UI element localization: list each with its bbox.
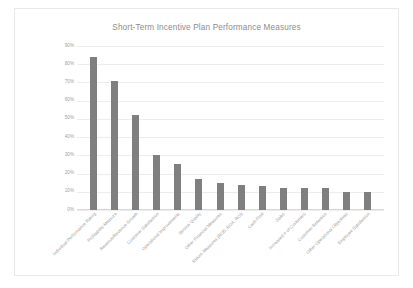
x-label-slot: Return Measures (ROE, ROA, ROI)	[231, 211, 252, 281]
y-tick-label: 50%	[44, 116, 74, 121]
bar[interactable]	[343, 192, 350, 210]
bar[interactable]	[174, 164, 181, 210]
bar-slot	[294, 46, 315, 210]
bar-slot	[104, 46, 125, 210]
bar[interactable]	[111, 81, 118, 210]
bar[interactable]	[217, 183, 224, 210]
bar-slot	[83, 46, 104, 210]
bar[interactable]	[153, 155, 160, 210]
bar-series	[77, 46, 384, 210]
y-tick-label: 30%	[44, 153, 74, 158]
bar[interactable]	[280, 188, 287, 210]
bar[interactable]	[90, 57, 97, 210]
bar[interactable]	[322, 188, 329, 210]
x-label-slot: Other Operational Objectives	[336, 211, 357, 281]
bar-slot	[315, 46, 336, 210]
bar-slot	[357, 46, 378, 210]
y-tick-label: 10%	[44, 189, 74, 194]
bar-slot	[209, 46, 230, 210]
bar-slot	[336, 46, 357, 210]
y-tick-label: 90%	[44, 44, 74, 49]
bar[interactable]	[301, 188, 308, 210]
bar[interactable]	[195, 179, 202, 210]
bar[interactable]	[364, 192, 371, 210]
x-axis: Individual Performance RatingProfitabili…	[77, 211, 384, 281]
chart-frame: Short-Term Incentive Plan Performance Me…	[14, 8, 399, 276]
y-tick-label: 70%	[44, 80, 74, 85]
y-tick-label: 80%	[44, 62, 74, 67]
bar-slot	[273, 46, 294, 210]
y-tick-label: 40%	[44, 135, 74, 140]
chart-title: Short-Term Incentive Plan Performance Me…	[15, 23, 398, 32]
bar-slot	[125, 46, 146, 210]
bar-slot	[231, 46, 252, 210]
y-tick-label: 20%	[44, 171, 74, 176]
y-tick-label: 0%	[44, 208, 74, 213]
bar[interactable]	[259, 186, 266, 210]
bar-slot	[167, 46, 188, 210]
x-label-slot: Employee Satisfaction	[357, 211, 378, 281]
x-tick-label: Sales	[275, 212, 286, 223]
y-axis: 90%80%70%60%50%40%30%20%10%0%	[41, 46, 74, 210]
bar-slot	[252, 46, 273, 210]
y-tick-label: 60%	[44, 98, 74, 103]
bar-slot	[146, 46, 167, 210]
bar[interactable]	[238, 185, 245, 211]
bar[interactable]	[132, 115, 139, 210]
bar-slot	[188, 46, 209, 210]
